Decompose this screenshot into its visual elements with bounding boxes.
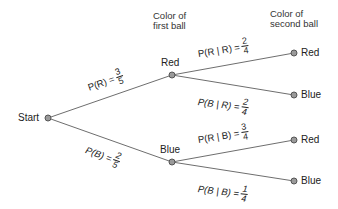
prob-lhs: P(R | B) = <box>197 128 240 145</box>
denominator: 4 <box>242 132 248 142</box>
prob-lhs: P(B | R) = <box>197 96 240 112</box>
denominator: 5 <box>117 76 125 86</box>
node-start <box>45 115 51 121</box>
denominator: 4 <box>241 107 247 117</box>
label-first-red: Red <box>161 58 179 68</box>
node-red-red <box>291 50 297 56</box>
label-blue-red: Red <box>301 135 319 145</box>
denominator: 4 <box>243 46 249 56</box>
edge-blue-blue <box>172 162 294 181</box>
denominator: 4 <box>241 194 247 204</box>
node-first-blue <box>169 159 175 165</box>
label-red-red: Red <box>301 48 319 58</box>
label-red-blue: Blue <box>301 90 321 100</box>
tree-edges <box>0 0 338 209</box>
prob-lhs: P(B | B) = <box>197 183 239 199</box>
header-first-ball: Color of first ball <box>153 11 186 31</box>
edge-red-blue <box>172 75 294 95</box>
header-first-line2: first ball <box>153 21 186 31</box>
label-first-blue: Blue <box>160 145 180 155</box>
node-blue-blue <box>291 178 297 184</box>
header-second-line2: second ball <box>270 19 318 29</box>
node-first-red <box>169 72 175 78</box>
label-start: Start <box>18 113 39 123</box>
label-blue-blue: Blue <box>301 176 321 186</box>
header-second-ball: Color of second ball <box>270 9 318 29</box>
prob-lhs: P(R | R) = <box>197 41 241 58</box>
node-red-blue <box>291 92 297 98</box>
node-blue-red <box>291 137 297 143</box>
